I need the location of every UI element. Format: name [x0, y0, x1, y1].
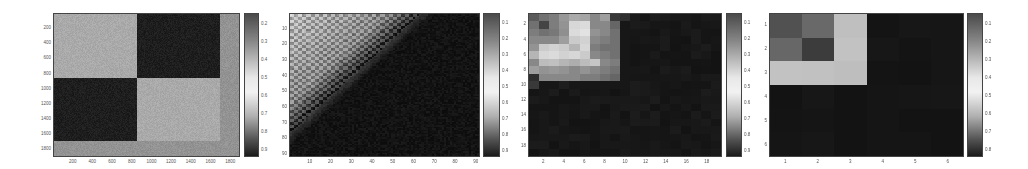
x-tick-label: 2 — [808, 160, 828, 165]
x-tick-label: 1 — [775, 160, 795, 165]
colorbar-tick-label: 0.4 — [985, 76, 997, 81]
colorbar-tick-label: 0.7 — [985, 130, 997, 135]
colorbar-tick-label: 0.8 — [985, 148, 997, 153]
colorbar-tick-label: 0.5 — [985, 94, 997, 99]
x-tick-label: 3 — [840, 160, 860, 165]
y-tick-label: 3 — [747, 71, 767, 76]
x-tick-label: 6 — [938, 160, 958, 165]
colorbar-tick-label: 0.1 — [985, 22, 997, 27]
colorbar — [967, 13, 983, 157]
x-tick-label: 4 — [873, 160, 893, 165]
colorbar-tick-label: 0.6 — [985, 112, 997, 117]
y-tick-label: 2 — [747, 47, 767, 52]
colorbar-tick-label: 0.2 — [985, 40, 997, 45]
y-tick-label: 5 — [747, 119, 767, 124]
y-tick-label: 1 — [747, 23, 767, 28]
heatmap-canvas — [770, 14, 963, 156]
y-tick-label: 6 — [747, 143, 767, 148]
y-tick-label: 4 — [747, 95, 767, 100]
colorbar-tick-label: 0.3 — [985, 58, 997, 63]
heatmap-plot-area — [769, 13, 964, 157]
x-tick-label: 5 — [905, 160, 925, 165]
heatmap-panel-4: 1234561234560.10.20.30.40.50.60.70.8 — [0, 0, 1028, 169]
